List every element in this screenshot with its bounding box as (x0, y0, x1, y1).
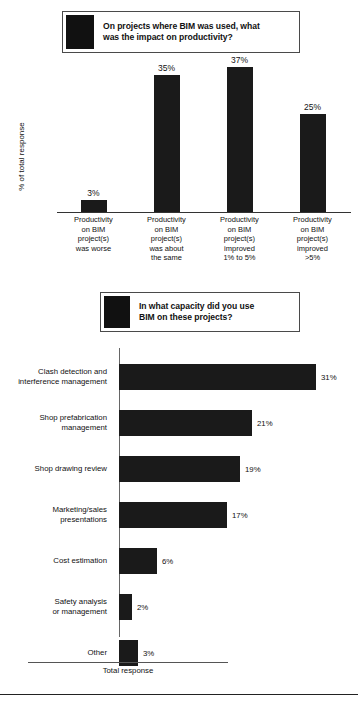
chart1-category-0-line4: was worse (76, 244, 111, 253)
chart2-row-2: Shop drawing review 19% (0, 456, 358, 482)
chart1-category-0-line3: project(s) (78, 234, 109, 243)
chart2-value-2: 19% (245, 465, 261, 474)
chart1-category-3-line1: Productivity (293, 215, 332, 224)
chart1-title-line1: On projects where BIM was used, what (103, 21, 260, 31)
chart2-bar-group-5: 2% (119, 594, 148, 620)
chart2-title-line1: In what capacity did you use (139, 301, 254, 311)
chart1-category-3-line3: project(s) (297, 234, 328, 243)
chart2-label-5-line2: or management (52, 607, 107, 616)
chart1-category-0: Productivity on BIM project(s) was worse (57, 215, 130, 263)
chart2-title-text: In what capacity did you use BIM on thes… (130, 293, 299, 331)
chart1-bar-0 (81, 200, 107, 212)
chart2-label-6-line1: Other (88, 648, 108, 657)
chart1-bar-value-0: 3% (87, 189, 99, 198)
chart2-bar-3 (119, 502, 227, 528)
chart2-value-0: 31% (321, 373, 337, 382)
chart1-bar-group-3: 25% (276, 55, 349, 212)
chart1-category-1-line2: on BIM (155, 225, 179, 234)
chart2-row-1: Shop prefabrication management 21% (0, 410, 358, 436)
chart2-row-0: Clash detection and interference managem… (0, 364, 358, 390)
chart1-x-axis-line (57, 212, 351, 213)
chart1-category-3-line5: >5% (305, 253, 320, 262)
chart1-bar-group-1: 35% (130, 55, 203, 212)
chart1-title-callout: On projects where BIM was used, what was… (62, 11, 300, 53)
chart1-bar-value-2: 37% (231, 56, 248, 65)
chart1-category-1-line1: Productivity (147, 215, 186, 224)
chart1-category-labels: Productivity on BIM project(s) was worse… (57, 215, 351, 263)
chart1-category-1-line4: was about (149, 244, 183, 253)
chart1-bar-2 (227, 67, 253, 212)
chart2-x-axis-line (28, 662, 228, 663)
chart2-label-0-line1: Clash detection and (38, 367, 107, 376)
chart2-label-5-line1: Safety analysis (55, 597, 107, 606)
productivity-impact-bar-chart: % of total response 3% 35% 37% 25% Produ… (0, 55, 358, 280)
chart2-label-1-line1: Shop prefabrication (39, 413, 107, 422)
chart2-bar-4 (119, 548, 157, 574)
chart2-label-2-line1: Shop drawing review (35, 464, 107, 473)
chart2-value-5: 2% (137, 603, 148, 612)
chart1-category-1-line3: project(s) (151, 234, 182, 243)
chart2-label-3-line2: presentations (60, 515, 107, 524)
chart1-category-2-line1: Productivity (220, 215, 259, 224)
chart1-title-line2: was the impact on productivity? (103, 32, 233, 42)
chart1-category-1: Productivity on BIM project(s) was about… (130, 215, 203, 263)
chart2-x-axis-label: Total response (28, 666, 228, 675)
chart2-label-5: Safety analysis or management (0, 597, 113, 617)
chart1-category-0-line2: on BIM (82, 225, 106, 234)
chart1-category-0-line1: Productivity (74, 215, 113, 224)
chart1-bar-3 (300, 114, 326, 212)
chart2-value-6: 3% (143, 649, 154, 658)
chart2-label-3: Marketing/sales presentations (0, 505, 113, 525)
chart1-category-2: Productivity on BIM project(s) improved … (203, 215, 276, 263)
chart1-category-2-line4: improved (224, 244, 255, 253)
chart2-bar-group-0: 31% (119, 364, 337, 390)
chart2-title-callout: In what capacity did you use BIM on thes… (100, 292, 300, 332)
page-bottom-rule (0, 694, 358, 695)
chart2-value-3: 17% (232, 511, 248, 520)
chart2-bar-group-3: 17% (119, 502, 248, 528)
chart2-label-2: Shop drawing review (0, 464, 113, 474)
chart2-title-swatch-icon (104, 296, 130, 328)
chart1-category-2-line5: 1% to 5% (223, 253, 255, 262)
chart2-bar-group-2: 19% (119, 456, 261, 482)
chart1-bar-group-0: 3% (57, 55, 130, 212)
chart2-row-3: Marketing/sales presentations 17% (0, 502, 358, 528)
chart1-category-2-line3: project(s) (224, 234, 255, 243)
chart1-bar-group-2: 37% (203, 55, 276, 212)
chart2-label-0-line2: interference management (18, 377, 107, 386)
chart2-title-line2: BIM on these projects? (139, 312, 232, 322)
chart2-label-4-line1: Cost estimation (53, 556, 107, 565)
chart1-plot-area: 3% 35% 37% 25% (57, 55, 351, 212)
chart2-value-1: 21% (257, 419, 273, 428)
chart1-bar-value-1: 35% (158, 64, 175, 73)
bim-capacity-bar-chart: Clash detection and interference managem… (0, 344, 358, 701)
chart2-bar-0 (119, 364, 316, 390)
chart2-label-1-line2: management (61, 423, 107, 432)
chart2-value-4: 6% (162, 557, 173, 566)
chart2-label-1: Shop prefabrication management (0, 413, 113, 433)
chart1-bar-1 (154, 75, 180, 212)
chart1-category-3-line4: improved (297, 244, 328, 253)
chart2-bar-1 (119, 410, 252, 436)
chart2-label-4: Cost estimation (0, 556, 113, 566)
chart2-label-0: Clash detection and interference managem… (0, 367, 113, 387)
chart2-bar-group-4: 6% (119, 548, 173, 574)
chart1-category-1-line5: the same (151, 253, 182, 262)
chart2-bar-2 (119, 456, 240, 482)
chart1-category-2-line2: on BIM (228, 225, 252, 234)
chart1-y-axis-label: % of total response (17, 97, 26, 217)
chart2-label-3-line1: Marketing/sales (52, 505, 107, 514)
chart1-category-3-line2: on BIM (301, 225, 325, 234)
chart1-category-3: Productivity on BIM project(s) improved … (276, 215, 349, 263)
chart1-bar-value-3: 25% (304, 103, 321, 112)
chart1-title-swatch-icon (66, 15, 94, 49)
chart2-bar-5 (119, 594, 132, 620)
chart2-row-4: Cost estimation 6% (0, 548, 358, 574)
chart1-title-text: On projects where BIM was used, what was… (94, 12, 299, 52)
chart2-row-5: Safety analysis or management 2% (0, 594, 358, 620)
chart2-bar-group-1: 21% (119, 410, 273, 436)
chart2-label-6: Other (0, 648, 113, 658)
